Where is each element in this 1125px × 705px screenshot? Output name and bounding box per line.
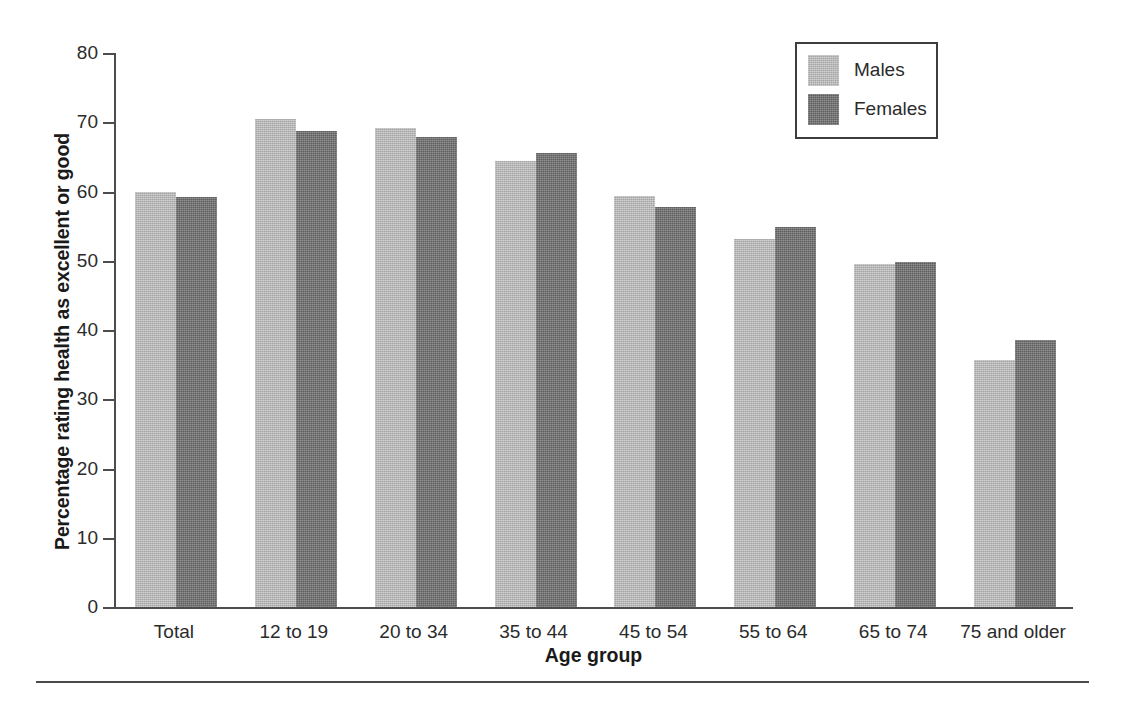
bar-females-45-to-54[interactable] [655, 207, 696, 607]
legend-item-males: Males [808, 54, 905, 86]
bar-males-55-to-64[interactable] [734, 239, 775, 607]
bar-group [474, 53, 594, 607]
y-tick-mark [103, 399, 114, 401]
bar-males-75-and-older[interactable] [974, 360, 1015, 607]
bar-males-12-to-19[interactable] [255, 119, 296, 607]
bar-males-65-to-74[interactable] [854, 264, 895, 607]
bar-females-75-and-older[interactable] [1015, 340, 1056, 607]
y-tick-label: 10 [77, 527, 98, 549]
x-tick-label-total: Total [114, 621, 234, 643]
y-tick-mark [103, 538, 114, 540]
bar-group [234, 53, 354, 607]
bar-females-12-to-19[interactable] [296, 131, 337, 607]
legend-item-females: Females [808, 93, 927, 125]
y-tick-mark [103, 261, 114, 263]
x-tick-label-12-to-19: 12 to 19 [234, 621, 354, 643]
legend-label-females: Females [854, 98, 927, 120]
bar-group [594, 53, 714, 607]
bar-females-20-to-34[interactable] [416, 137, 457, 607]
y-tick-mark [103, 330, 114, 332]
y-tick-label: 80 [77, 42, 98, 64]
y-axis-title: Percentage rating health as excellent or… [51, 52, 74, 632]
bar-males-total[interactable] [135, 192, 176, 608]
y-tick-label: 60 [77, 181, 98, 203]
x-tick-label-65-to-74: 65 to 74 [833, 621, 953, 643]
bar-males-45-to-54[interactable] [614, 196, 655, 607]
bar-group [953, 53, 1073, 607]
x-axis-line [114, 607, 1073, 609]
y-tick-mark [103, 192, 114, 194]
y-tick-label: 50 [77, 250, 98, 272]
y-tick-label: 70 [77, 111, 98, 133]
x-axis-title: Age group [114, 644, 1073, 667]
bar-females-total[interactable] [176, 197, 217, 607]
bar-chart-figure: Percentage rating health as excellent or… [0, 0, 1125, 705]
footer-divider [36, 681, 1089, 683]
y-tick-label: 30 [77, 388, 98, 410]
bar-group [354, 53, 474, 607]
x-tick-label-35-to-44: 35 to 44 [474, 621, 594, 643]
y-tick-mark [103, 607, 114, 609]
legend-label-males: Males [854, 59, 905, 81]
y-tick-mark [103, 53, 114, 55]
x-tick-label-45-to-54: 45 to 54 [594, 621, 714, 643]
y-tick-mark [103, 122, 114, 124]
bar-males-20-to-34[interactable] [375, 128, 416, 607]
bar-females-35-to-44[interactable] [536, 153, 577, 607]
legend: Males Females [795, 42, 938, 139]
y-tick-label: 20 [77, 458, 98, 480]
bar-females-65-to-74[interactable] [895, 262, 936, 607]
bar-males-35-to-44[interactable] [495, 161, 536, 607]
bar-females-55-to-64[interactable] [775, 227, 816, 607]
y-tick-label: 0 [87, 596, 98, 618]
y-tick-mark [103, 469, 114, 471]
legend-swatch-males-icon [808, 55, 839, 86]
x-tick-label-55-to-64: 55 to 64 [713, 621, 833, 643]
bar-group [114, 53, 234, 607]
x-tick-label-20-to-34: 20 to 34 [354, 621, 474, 643]
x-tick-label-75-and-older: 75 and older [953, 621, 1073, 643]
y-tick-label: 40 [77, 319, 98, 341]
legend-swatch-females-icon [808, 94, 839, 125]
